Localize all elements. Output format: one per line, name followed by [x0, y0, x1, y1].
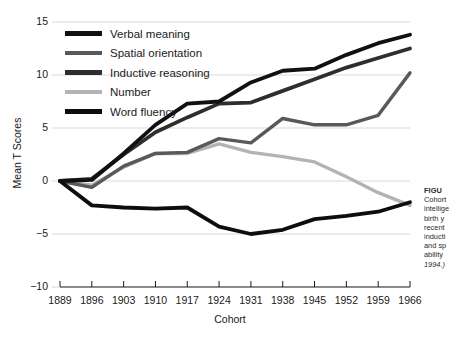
y-axis-tick-label: 15: [18, 16, 48, 27]
chart-legend: Verbal meaningSpatial orientationInducti…: [65, 24, 210, 122]
legend-item-label: Inductive reasoning: [110, 67, 210, 79]
legend-swatch-icon: [65, 90, 102, 94]
chart-plot-area: [0, 0, 420, 338]
legend-swatch-icon: [65, 70, 102, 75]
legend-swatch-icon: [65, 51, 102, 55]
legend-swatch-icon: [65, 109, 102, 114]
legend-item-label: Word fluency: [110, 106, 177, 118]
caption-line: birth y: [424, 214, 473, 223]
line-chart: [0, 0, 420, 338]
legend-item: Number: [65, 83, 210, 103]
legend-item: Spatial orientation: [65, 44, 210, 64]
caption-citation: 1994.): [424, 260, 473, 269]
y-axis-title: Mean T Scores: [11, 103, 23, 203]
legend-item-label: Verbal meaning: [110, 28, 190, 40]
x-axis-title: Cohort: [170, 313, 290, 325]
figure-root: 151050−5−10 1889189619031910191719241931…: [0, 0, 473, 338]
legend-item: Word fluency: [65, 102, 210, 122]
caption-line: Cohort: [424, 195, 473, 204]
caption-title: FIGU: [424, 186, 473, 195]
y-axis-tick-label: −10: [18, 281, 48, 292]
caption-line: ability: [424, 250, 473, 259]
y-axis-tick-label: 10: [18, 69, 48, 80]
legend-item: Inductive reasoning: [65, 63, 210, 83]
legend-item: Verbal meaning: [65, 24, 210, 44]
legend-swatch-icon: [65, 31, 102, 36]
caption-line: intellige: [424, 204, 473, 213]
legend-item-label: Spatial orientation: [110, 47, 202, 59]
y-axis-tick-label: −5: [18, 228, 48, 239]
caption-line: recent: [424, 223, 473, 232]
series-line-word-fluency: [60, 181, 410, 234]
caption-line: and sp: [424, 241, 473, 250]
legend-item-label: Number: [110, 86, 151, 98]
caption-body: Cohortintelligebirth yrecentinductiand s…: [424, 195, 473, 259]
figure-caption: FIGU Cohortintelligebirth yrecentinducti…: [424, 186, 473, 326]
caption-line: inducti: [424, 232, 473, 241]
